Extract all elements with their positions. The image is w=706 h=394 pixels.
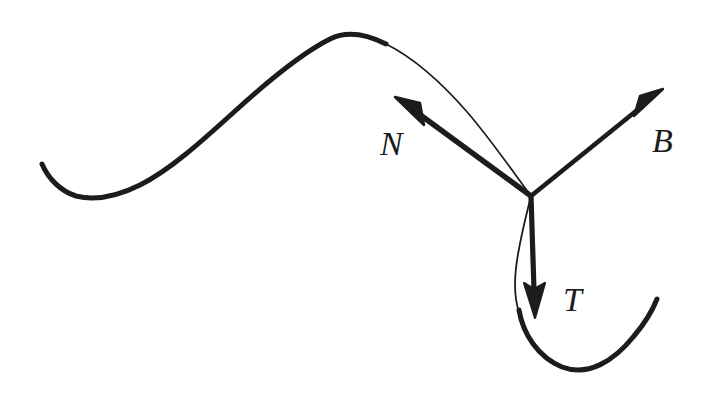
vector-T-shaft	[531, 196, 534, 290]
vector-label-N: N	[380, 127, 403, 161]
frenet-frame-canvas	[0, 0, 706, 394]
frenet-frame-figure: N B T	[0, 0, 706, 394]
vector-label-B: B	[652, 124, 673, 158]
vector-label-T: T	[563, 283, 582, 317]
